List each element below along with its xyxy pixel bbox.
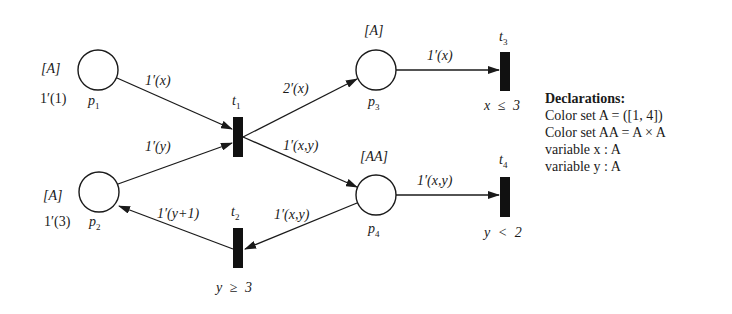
declarations-title: Declarations: (545, 90, 666, 107)
p3-colorset: [A] (364, 24, 383, 38)
transition-t2[interactable] (233, 228, 243, 268)
p3-name: p3 (368, 95, 380, 112)
declarations-panel: Declarations: Color set A = ([1, 4]) Col… (545, 90, 666, 175)
p2-marking: 1′(3) (44, 215, 70, 229)
arc-p2-t1-inscription: 1′(y) (145, 140, 171, 154)
arc-p3-t3-inscription: 1′(x) (427, 49, 453, 63)
t2-guard: y ≥ 3 (216, 281, 252, 295)
arc-p1-t1-inscription: 1′(x) (145, 74, 171, 88)
arc-p4-t4-inscription: 1′(x,y) (417, 174, 452, 188)
place-p4[interactable] (356, 175, 396, 215)
t4-name: t4 (499, 153, 507, 170)
declaration-line: variable y : A (545, 158, 666, 175)
declaration-line: Color set AA = A × A (545, 124, 666, 141)
place-p2[interactable] (79, 172, 119, 212)
p4-colorset: [AA] (360, 150, 388, 164)
arc-p1-t1[interactable] (117, 78, 232, 129)
p4-name: p4 (368, 222, 380, 239)
p1-colorset: [A] (41, 62, 60, 76)
transition-t1[interactable] (233, 117, 243, 157)
p1-marking: 1′(1) (40, 92, 66, 106)
t4-guard: y < 2 (484, 226, 522, 240)
t3-guard: x ≤ 3 (484, 99, 520, 113)
transition-t3[interactable] (500, 52, 510, 91)
t1-name: t1 (232, 94, 240, 111)
place-p1[interactable] (78, 50, 118, 90)
declaration-line: Color set A = ([1, 4]) (545, 107, 666, 124)
t3-name: t3 (499, 30, 507, 47)
t2-name: t2 (231, 205, 239, 222)
arc-t1-p4-inscription: 1′(x,y) (283, 139, 318, 153)
p2-colorset: [A] (43, 189, 62, 203)
p2-name: p2 (89, 215, 101, 232)
arc-t1-p3-inscription: 2′(x) (283, 82, 309, 96)
arc-t2-p2-inscription: 1′(y+1) (157, 207, 199, 221)
p1-name: p1 (88, 94, 100, 111)
arc-p4-t2-inscription: 1′(x,y) (274, 208, 309, 222)
declaration-line: variable x : A (545, 141, 666, 158)
place-p3[interactable] (356, 50, 396, 90)
arc-p2-t1[interactable] (118, 143, 232, 184)
transition-t4[interactable] (500, 177, 510, 217)
